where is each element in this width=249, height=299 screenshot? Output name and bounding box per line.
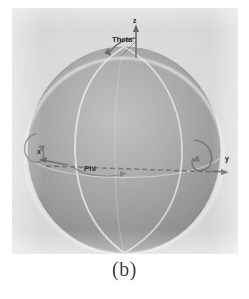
phi-angle-label: Phi: [84, 164, 96, 173]
theta-angle-label: Theta: [112, 35, 132, 44]
figure-panel: z Theta x Phi y: [12, 8, 238, 254]
y-axis-label: y: [225, 155, 229, 162]
scan-grain-overlay-2: [12, 8, 238, 254]
sphere-plot: [12, 8, 238, 254]
figure-caption: (b): [0, 258, 249, 281]
x-axis-label: x: [37, 148, 41, 155]
z-axis-label: z: [133, 17, 136, 24]
